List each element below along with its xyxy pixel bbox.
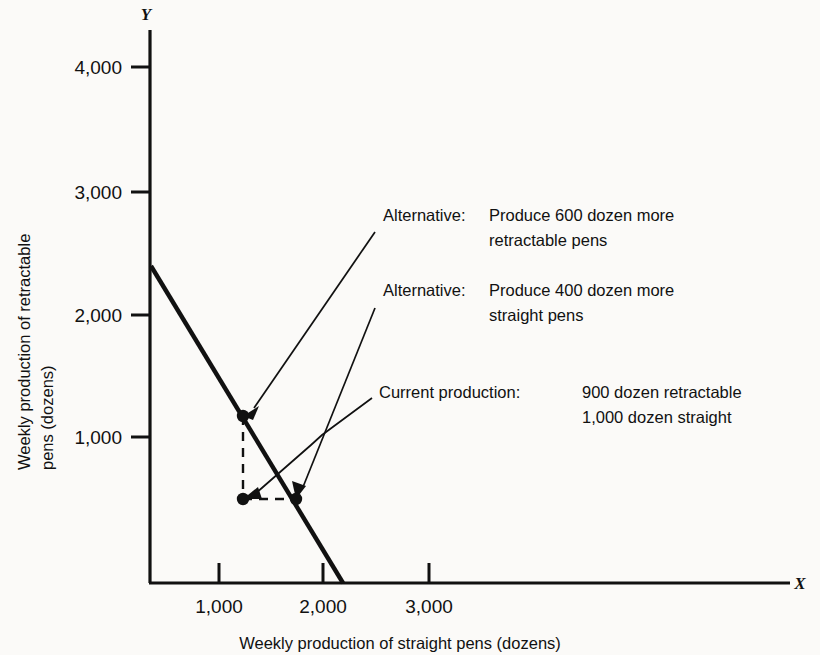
data-point-more-retractable[interactable] [237,410,249,422]
data-point-more-straight[interactable] [290,493,302,505]
leader-line-current-production [255,398,372,494]
y-tick-label-4000: 4,000 [74,57,122,78]
y-axis-title-line1: Weekly production of retractable [15,234,33,470]
annotation-alt-straight-line2: straight pens [489,306,583,324]
figure-canvas: Y X 4,000 3,000 2,000 1,000 1,000 2,000 … [0,0,820,655]
annotation-alt-retractable-line2: retractable pens [489,231,607,249]
x-axis-letter: X [793,574,806,593]
annotation-current-line1: 900 dozen retractable [582,383,742,401]
annotation-current-line2: 1,000 dozen straight [582,408,732,426]
annotation-alt-straight-line1: Produce 400 dozen more [489,281,674,299]
y-tick-label-1000: 1,000 [74,427,122,448]
x-tick-label-3000: 3,000 [405,596,453,617]
y-tick-label-3000: 3,000 [74,182,122,203]
y-axis-letter: Y [141,5,153,24]
leader-line-more-retractable [254,232,375,408]
ppf-frontier-line [151,266,343,583]
annotation-current-label: Current production: [379,383,520,401]
annotation-alt-retractable-label: Alternative: [383,206,466,224]
x-axis-title: Weekly production of straight pens (doze… [239,634,561,652]
y-axis-title-line2: pens (dozens) [38,365,56,470]
ppf-chart: Y X 4,000 3,000 2,000 1,000 1,000 2,000 … [0,0,820,655]
y-tick-label-2000: 2,000 [74,305,122,326]
data-point-current-production[interactable] [237,493,249,505]
annotation-alt-straight-label: Alternative: [383,281,466,299]
leader-line-more-straight [303,308,375,487]
x-tick-label-2000: 2,000 [299,596,347,617]
annotation-alt-retractable-line1: Produce 600 dozen more [489,206,674,224]
x-tick-label-1000: 1,000 [195,596,243,617]
